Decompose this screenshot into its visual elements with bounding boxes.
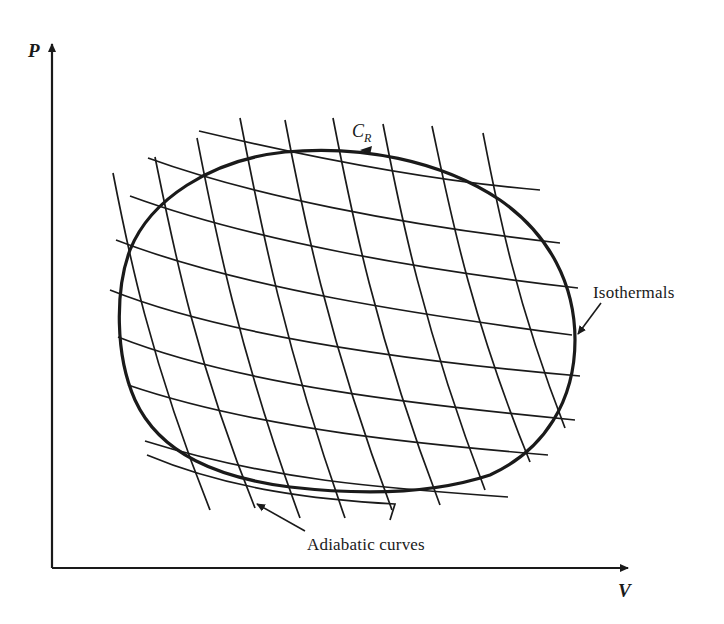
cycle-label-subscript: R xyxy=(364,131,371,145)
adiabatic-curves-label: Adiabatic curves xyxy=(307,535,425,555)
pv-diagram xyxy=(0,0,724,624)
cycle-cr xyxy=(119,150,575,492)
cycle-label: CR xyxy=(352,121,371,146)
cycle-label-main: C xyxy=(352,121,364,141)
isothermals-leader-arrow xyxy=(578,303,601,334)
adiabatic-curves xyxy=(113,118,565,518)
p-axis-label: P xyxy=(28,40,40,62)
adiabatic-leader-arrow xyxy=(257,504,305,531)
axes xyxy=(52,44,628,568)
isothermals-label: Isothermals xyxy=(593,283,675,303)
v-axis-label: V xyxy=(618,580,631,602)
